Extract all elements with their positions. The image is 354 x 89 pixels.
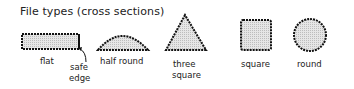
- half-round-shape: [98, 36, 148, 50]
- label-square-2: square: [172, 70, 201, 80]
- flat-file-shape: [22, 34, 80, 49]
- three-square-shape: [166, 15, 206, 50]
- label-three: three: [173, 59, 196, 69]
- round-shape: [294, 19, 326, 51]
- label-edge: edge: [69, 73, 90, 83]
- label-half-round: half round: [100, 56, 143, 66]
- label-flat: flat: [40, 56, 54, 66]
- label-safe: safe: [70, 62, 88, 72]
- label-square: square: [241, 59, 270, 69]
- label-round: round: [297, 59, 322, 69]
- square-shape: [241, 20, 271, 50]
- safe-edge-arrow: [80, 49, 86, 62]
